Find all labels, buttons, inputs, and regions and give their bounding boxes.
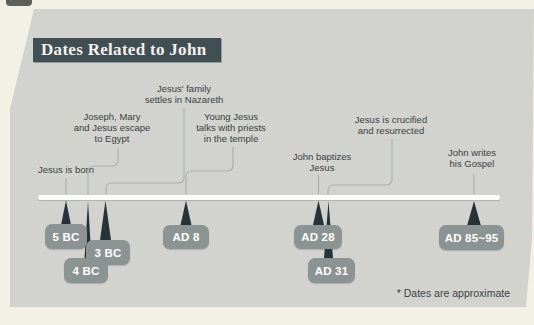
event-label-line: Jesus is crucified bbox=[355, 114, 427, 125]
date-badge-ad28: AD 28 bbox=[294, 225, 342, 249]
event-label-temple: Young Jesus talks with priests in the te… bbox=[196, 111, 266, 144]
event-label-line: in the temple bbox=[196, 133, 266, 144]
footnote: * Dates are approximate bbox=[397, 287, 510, 299]
page-binding-smudge bbox=[6, 0, 32, 6]
event-label-line: settles in Nazareth bbox=[145, 94, 224, 105]
scanned-page: Dates Related to John Jesus is born Jose… bbox=[0, 0, 534, 325]
event-label-line: John baptizes bbox=[293, 151, 352, 162]
title-bar: Dates Related to John bbox=[33, 38, 221, 62]
date-badge-ad8: AD 8 bbox=[163, 225, 209, 249]
page-title: Dates Related to John bbox=[33, 40, 206, 60]
date-badge-ad85-95: AD 85~95 bbox=[439, 225, 504, 250]
event-label-baptism: John baptizes Jesus bbox=[293, 151, 352, 173]
event-label-line: to Egypt bbox=[74, 133, 151, 144]
event-label-line: Jesus bbox=[293, 162, 352, 173]
event-label-line: Jesus' family bbox=[145, 83, 224, 94]
event-label-line: and resurrected bbox=[355, 125, 427, 136]
event-label-line: Young Jesus bbox=[196, 111, 266, 122]
date-badge-ad31: AD 31 bbox=[308, 258, 355, 283]
event-label-line: his Gospel bbox=[448, 158, 496, 169]
event-label-line: John writes bbox=[448, 147, 496, 158]
event-label-born: Jesus is born bbox=[38, 164, 94, 175]
event-label-line: and Jesus escape bbox=[74, 122, 151, 133]
date-badge-4bc: 4 BC bbox=[64, 258, 108, 283]
date-badge-5bc: 5 BC bbox=[45, 224, 87, 249]
event-label-line: talks with priests bbox=[196, 122, 266, 133]
event-label-line: Joseph, Mary bbox=[74, 111, 151, 122]
event-label-crucifixion: Jesus is crucified and resurrected bbox=[355, 114, 427, 136]
event-label-egypt: Joseph, Mary and Jesus escape to Egypt bbox=[74, 111, 151, 144]
event-label-gospel: John writes his Gospel bbox=[448, 147, 496, 169]
event-label-line: Jesus is born bbox=[38, 164, 94, 175]
event-label-nazareth: Jesus' family settles in Nazareth bbox=[145, 83, 224, 105]
timeline-line bbox=[38, 195, 500, 201]
